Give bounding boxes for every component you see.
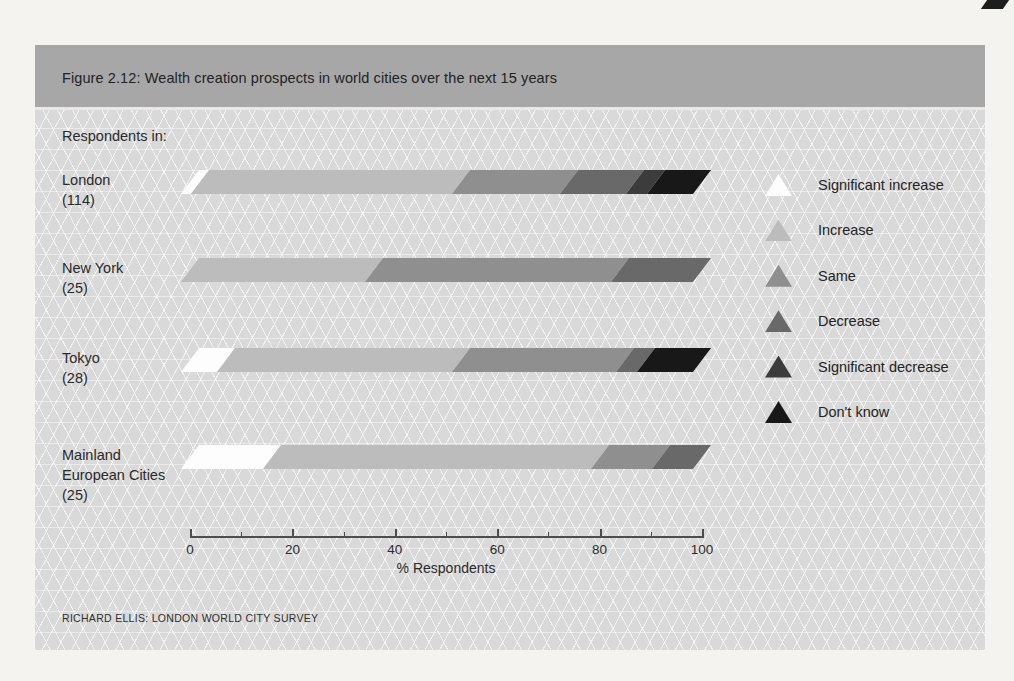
- row-label-london-114: London(114): [62, 170, 110, 210]
- legend-item-don-t-know: Don't know: [765, 400, 889, 424]
- bar-segment-increase: [181, 258, 383, 282]
- x-axis-tick-label: 80: [592, 542, 607, 557]
- bar-tokyo-28: [181, 348, 711, 372]
- bar-segment-increase: [217, 348, 471, 372]
- x-axis-minor-tick: [241, 532, 242, 538]
- bar-segment-same: [452, 348, 634, 372]
- legend-label: Same: [818, 268, 856, 284]
- x-axis-tick: [395, 529, 397, 538]
- x-axis-tick: [600, 529, 602, 538]
- legend-item-significant-increase: Significant increase: [765, 173, 944, 197]
- figure-2-12: Figure 2.12: Wealth creation prospects i…: [35, 45, 985, 650]
- figure-title: Figure 2.12: Wealth creation prospects i…: [62, 70, 985, 86]
- x-axis-label: % Respondents: [190, 560, 702, 576]
- legend-label: Significant decrease: [818, 359, 949, 375]
- x-axis-minor-tick: [548, 532, 549, 538]
- x-axis-tick-label: 20: [285, 542, 300, 557]
- legend-triangle-icon: [765, 219, 792, 241]
- legend-item-same: Same: [765, 264, 856, 288]
- x-axis-tick: [292, 529, 294, 538]
- legend-triangle-icon: [765, 310, 792, 332]
- bar-mainland-european-cities-25: [181, 445, 711, 469]
- x-axis-tick: [497, 529, 499, 538]
- legend-triangle-icon: [765, 356, 792, 378]
- source-text: RICHARD ELLIS: LONDON WORLD CITY SURVEY: [62, 612, 318, 624]
- legend-label: Decrease: [818, 313, 880, 329]
- bar-new-york-25: [181, 258, 711, 282]
- legend-triangle-icon: [765, 401, 792, 423]
- legend-item-increase: Increase: [765, 218, 874, 242]
- legend-label: Significant increase: [818, 177, 944, 193]
- legend-triangle-icon: [765, 174, 792, 196]
- x-axis-tick: [190, 529, 192, 538]
- figure-body: Respondents in: London(114)New York(25)T…: [35, 107, 985, 650]
- bar-segment-increase: [263, 445, 609, 469]
- x-axis-tick-label: 100: [691, 542, 714, 557]
- legend-label: Don't know: [818, 404, 889, 420]
- x-axis-tick: [702, 529, 704, 538]
- legend-triangle-icon: [765, 265, 792, 287]
- respondents-in-label: Respondents in:: [62, 128, 167, 144]
- scan-artifact: [981, 0, 1009, 9]
- legend-item-decrease: Decrease: [765, 309, 880, 333]
- x-axis-tick-label: 60: [490, 542, 505, 557]
- bar-segment-same: [365, 258, 629, 282]
- x-axis-minor-tick: [651, 532, 652, 538]
- bar-segment-decrease: [611, 258, 711, 282]
- row-label-tokyo-28: Tokyo(28): [62, 348, 100, 388]
- figure-header: Figure 2.12: Wealth creation prospects i…: [35, 45, 985, 107]
- x-axis: 020406080100: [190, 530, 702, 538]
- page: { "figure": { "title": "Figure 2.12: Wea…: [0, 0, 1014, 681]
- x-axis-tick-label: 0: [186, 542, 194, 557]
- bar-london-114: [181, 170, 711, 194]
- bar-segment-same: [452, 170, 578, 194]
- legend-label: Increase: [818, 222, 874, 238]
- row-label-mainland-european-cities-25: MainlandEuropean Cities(25): [62, 445, 165, 505]
- legend: Significant increaseIncreaseSameDecrease…: [765, 107, 983, 547]
- row-label-new-york-25: New York(25): [62, 258, 123, 298]
- bar-segment-increase: [191, 170, 470, 194]
- legend-item-significant-decrease: Significant decrease: [765, 355, 949, 379]
- x-axis-minor-tick: [344, 532, 345, 538]
- x-axis-minor-tick: [446, 532, 447, 538]
- x-axis-tick-label: 40: [387, 542, 402, 557]
